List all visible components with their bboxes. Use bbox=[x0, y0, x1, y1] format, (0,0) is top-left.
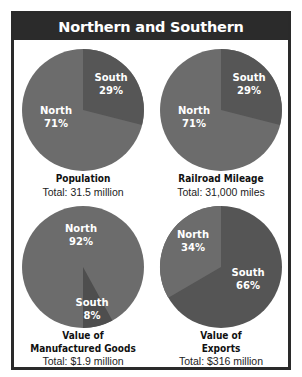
south-pct: 66% bbox=[236, 280, 260, 291]
north-label: North bbox=[65, 223, 97, 234]
chart-caption-line-2: Manufactured Goods bbox=[16, 343, 150, 356]
pie-exports: North 34% South 66% Value of Exports Tot… bbox=[154, 204, 288, 368]
south-label: South bbox=[231, 267, 264, 278]
chart-caption: Railroad Mileage bbox=[154, 173, 288, 186]
chart-title: Northern and Southern Resources, 1860 bbox=[14, 14, 288, 40]
pie-railroad-mileage: South 29% North 71% Railroad Mileage Tot… bbox=[154, 47, 288, 199]
north-label: North bbox=[178, 105, 210, 116]
chart-total: Total: 31,000 miles bbox=[154, 186, 288, 199]
chart-total: Total: 31.5 million bbox=[16, 186, 150, 199]
south-label: South bbox=[232, 72, 265, 83]
north-pct: 92% bbox=[69, 236, 93, 247]
south-label: South bbox=[75, 297, 108, 308]
chart-caption-line-1: Value of bbox=[154, 330, 288, 343]
north-pct: 71% bbox=[44, 118, 68, 129]
chart-total: Total: $1.9 million bbox=[16, 355, 150, 368]
south-label: South bbox=[94, 72, 127, 83]
north-label: North bbox=[177, 229, 209, 240]
pie-manufactured-graphic: North 92% South 8% bbox=[20, 204, 146, 330]
pie-railroad-graphic: South 29% North 71% bbox=[158, 47, 284, 173]
pie-population: South 29% North 71% Population Total: 31… bbox=[16, 47, 150, 199]
north-label: North bbox=[40, 105, 72, 116]
pie-population-graphic: South 29% North 71% bbox=[20, 47, 146, 173]
chart-caption-line-2: Exports bbox=[154, 343, 288, 356]
chart-total: Total: $316 million bbox=[154, 355, 288, 368]
pie-manufactured-goods: North 92% South 8% Value of Manufactured… bbox=[16, 204, 150, 368]
south-pct: 8% bbox=[84, 310, 101, 321]
chart-caption-line-1: Value of bbox=[16, 330, 150, 343]
chart-caption: Population bbox=[16, 173, 150, 186]
chart-frame: Northern and Southern Resources, 1860 So… bbox=[11, 11, 291, 370]
south-pct: 29% bbox=[237, 85, 261, 96]
south-pct: 29% bbox=[99, 85, 123, 96]
north-pct: 34% bbox=[181, 242, 205, 253]
pie-exports-graphic: North 34% South 66% bbox=[158, 204, 284, 330]
north-pct: 71% bbox=[182, 118, 206, 129]
